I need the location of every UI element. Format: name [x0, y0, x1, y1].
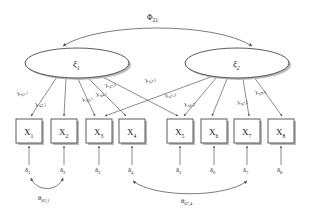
- svg-text:λX4,1: λX4,1: [95, 88, 108, 100]
- svg-text:λX5,2: λX5,2: [164, 89, 177, 101]
- error-labels: δ1 δ2 δ3 δ4 δ5 δ6 δ7 δ8: [25, 166, 283, 175]
- arrow-xi2-x6: [212, 79, 227, 116]
- d1-subscript: 1: [28, 170, 31, 175]
- x2-subscript: 2: [66, 133, 69, 139]
- d2-subscript: 2: [63, 170, 66, 175]
- svg-text:θδ2,1: θδ2,1: [38, 194, 50, 204]
- error-arrows: [29, 146, 281, 165]
- xi2-ellipse[interactable]: [185, 48, 289, 78]
- diagram-canvas: Φ21 ξ1 ξ2 X1 X2 X3 X4 X5 X6 X7 X8 δ1: [0, 0, 310, 209]
- x7-subscript: 7: [249, 133, 252, 139]
- l-x5-2a-subscript: X5,2: [108, 83, 117, 91]
- arrow-xi2-x8: [254, 77, 282, 116]
- svg-text:δ7: δ7: [243, 166, 249, 175]
- arrow-xi1-x2: [64, 78, 66, 116]
- th-d7-4-subscript: δ7,4: [184, 201, 193, 207]
- svg-text:λX3,1: λX3,1: [81, 93, 94, 105]
- l-x3-2-subscript: X3,2: [148, 78, 157, 86]
- svg-text:λX3,2: λX3,2: [144, 74, 157, 86]
- l-x4-1-subscript: X4,1: [99, 92, 108, 100]
- factor-covariance-arc: [63, 28, 252, 46]
- arrow-xi2-x7: [243, 79, 249, 116]
- arrow-xi2-x3-cross: [105, 75, 216, 116]
- theta-delta7-4-arc: [133, 181, 247, 194]
- svg-text:δ3: δ3: [95, 166, 101, 175]
- svg-text:λX1,1: λX1,1: [16, 87, 29, 99]
- svg-text:δ4: δ4: [128, 166, 134, 175]
- d8-subscript: 8: [280, 170, 283, 175]
- indicator-boxes: [16, 119, 296, 145]
- svg-text:λX8,2: λX8,2: [254, 86, 267, 98]
- svg-text:θδ7,4: θδ7,4: [181, 197, 193, 207]
- phi21-label: Φ21: [147, 13, 158, 23]
- x3-subscript: 3: [101, 133, 104, 139]
- x4-subscript: 4: [134, 133, 137, 139]
- xi2-subscript: 2: [237, 65, 240, 71]
- d7-subscript: 7: [246, 170, 249, 175]
- d3-subscript: 3: [98, 170, 101, 175]
- phi-subscript: 21: [153, 17, 159, 23]
- th-d2-1-subscript: δ2,1: [41, 198, 50, 204]
- d4-subscript: 4: [131, 170, 134, 175]
- phi21-double-arrow: [63, 28, 252, 46]
- svg-text:δ6: δ6: [210, 166, 216, 175]
- error-covariance-labels: θδ2,1 θδ7,4: [38, 194, 193, 207]
- x8-subscript: 8: [283, 133, 286, 139]
- arrow-xi2-x5: [184, 78, 216, 116]
- svg-text:δ1: δ1: [25, 166, 31, 175]
- d6-subscript: 6: [213, 170, 216, 175]
- theta-delta2-1-arc: [31, 178, 63, 189]
- d5-subscript: 5: [179, 170, 182, 175]
- loading-labels: λX1,1 λX2,1 λX3,1 λX4,1 λX5,2 λX3,2 λX5,…: [16, 74, 267, 110]
- error-covariance-arcs: [31, 178, 247, 194]
- svg-text:δ2: δ2: [60, 166, 66, 175]
- l-x1-1-subscript: X1,1: [20, 91, 29, 99]
- l-x5-2b-subscript: X5,2: [168, 93, 177, 101]
- svg-text:δ8: δ8: [277, 166, 283, 175]
- xi1-subscript: 1: [77, 65, 80, 71]
- x6-subscript: 6: [216, 133, 219, 139]
- x5-subscript: 5: [182, 133, 185, 139]
- svg-text:Φ21: Φ21: [147, 13, 158, 23]
- sem-path-diagram: Φ21 ξ1 ξ2 X1 X2 X3 X4 X5 X6 X7 X8 δ1: [0, 0, 310, 209]
- indicator-labels: X1 X2 X3 X4 X5 X6 X7 X8: [24, 127, 286, 139]
- svg-text:δ5: δ5: [176, 166, 182, 175]
- l-x8-2-subscript: X8,2: [258, 90, 267, 98]
- xi1-ellipse[interactable]: [25, 48, 129, 78]
- arrow-xi1-x1: [31, 77, 57, 116]
- x1-subscript: 1: [31, 133, 34, 139]
